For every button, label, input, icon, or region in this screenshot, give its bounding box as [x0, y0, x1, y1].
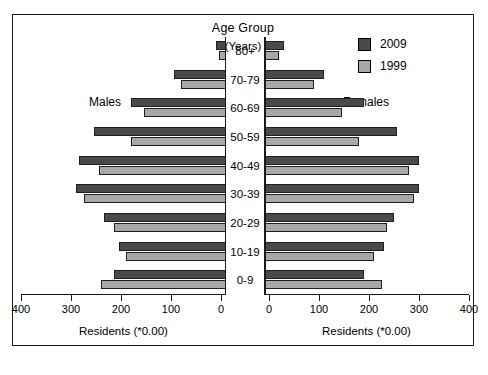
bar-males-1999-0-9	[101, 280, 226, 289]
bar-males-1999-70-79	[181, 80, 226, 89]
bar-row	[264, 152, 469, 181]
age-group-label-70-79: 70-79	[226, 66, 264, 95]
bar-females-2009-0-9	[264, 270, 364, 279]
bar-row	[264, 209, 469, 238]
bar-males-2009-20-29	[104, 213, 227, 222]
age-group-labels: 80+70-7960-6950-5940-4930-3920-2910-190-…	[226, 37, 264, 295]
age-group-label-30-39: 30-39	[226, 180, 264, 209]
bar-females-2009-50-59	[264, 127, 397, 136]
bar-females-2009-40-49	[264, 156, 419, 165]
axis-tick-label: 400	[12, 303, 30, 315]
bar-row	[21, 266, 226, 295]
bar-females-1999-50-59	[264, 137, 359, 146]
bar-row	[21, 238, 226, 267]
bar-females-2009-60-69	[264, 98, 364, 107]
axis-tick	[469, 295, 470, 301]
bar-females-2009-70-79	[264, 70, 324, 79]
axis-tick-label: 200	[112, 303, 130, 315]
females-x-axis	[264, 294, 469, 296]
axis-tick	[171, 295, 172, 301]
males-x-axis	[21, 294, 226, 296]
bar-row	[264, 123, 469, 152]
bar-row	[21, 123, 226, 152]
bar-males-2009-60-69	[131, 98, 226, 107]
bar-females-1999-0-9	[264, 280, 382, 289]
axis-tick	[369, 295, 370, 301]
bar-females-2009-20-29	[264, 213, 394, 222]
bar-row	[264, 238, 469, 267]
bar-males-1999-50-59	[131, 137, 226, 146]
bar-row	[21, 37, 226, 66]
age-group-label-20-29: 20-29	[226, 209, 264, 238]
bar-row	[264, 37, 469, 66]
bar-row	[264, 66, 469, 95]
age-group-label-50-59: 50-59	[226, 123, 264, 152]
bar-males-2009-10-19	[119, 242, 227, 251]
bar-males-1999-10-19	[126, 252, 226, 261]
bar-males-2009-50-59	[94, 127, 227, 136]
bar-females-2009-10-19	[264, 242, 384, 251]
axis-tick-label: 300	[62, 303, 80, 315]
axis-tick	[221, 295, 222, 301]
bar-females-1999-20-29	[264, 223, 387, 232]
males-axis-caption: Residents (*0.00)	[21, 325, 226, 337]
age-group-label-0-9: 0-9	[226, 266, 264, 295]
bar-row	[21, 180, 226, 209]
bar-males-1999-40-49	[99, 166, 227, 175]
chart-figure: Age Group (Years) Males Females 2009 199…	[12, 14, 474, 346]
bar-row	[21, 152, 226, 181]
males-panel: Residents (*0.00) 4003002001000	[21, 37, 226, 315]
bar-females-1999-30-39	[264, 194, 414, 203]
bar-females-2009-30-39	[264, 184, 419, 193]
bar-row	[21, 94, 226, 123]
females-axis-caption: Residents (*0.00)	[264, 325, 469, 337]
bar-females-1999-70-79	[264, 80, 314, 89]
bar-row	[264, 180, 469, 209]
axis-tick	[419, 295, 420, 301]
females-panel: Residents (*0.00) 0100200300400	[264, 37, 469, 315]
females-bars	[264, 37, 469, 295]
axis-tick-label: 0	[218, 303, 224, 315]
males-bars	[21, 37, 226, 295]
axis-tick-label: 400	[460, 303, 478, 315]
bar-row	[21, 66, 226, 95]
axis-tick	[71, 295, 72, 301]
axis-tick-label: 100	[310, 303, 328, 315]
axis-tick-label: 0	[266, 303, 272, 315]
bar-females-1999-40-49	[264, 166, 409, 175]
bar-females-1999-60-69	[264, 108, 342, 117]
age-group-label-80+: 80+	[226, 37, 264, 66]
bar-males-2009-40-49	[79, 156, 227, 165]
bar-females-1999-10-19	[264, 252, 374, 261]
bar-males-2009-70-79	[174, 70, 227, 79]
bar-females-2009-80+	[264, 41, 284, 50]
age-group-label-60-69: 60-69	[226, 94, 264, 123]
bar-females-1999-80+	[264, 51, 279, 60]
bar-males-2009-0-9	[114, 270, 227, 279]
bar-males-1999-20-29	[114, 223, 227, 232]
axis-tick-label: 300	[410, 303, 428, 315]
bar-row	[21, 209, 226, 238]
axis-tick	[319, 295, 320, 301]
axis-tick	[269, 295, 270, 301]
bar-row	[264, 94, 469, 123]
bar-males-1999-60-69	[144, 108, 227, 117]
axis-tick	[21, 295, 22, 301]
axis-tick-label: 100	[162, 303, 180, 315]
axis-tick	[121, 295, 122, 301]
bar-males-1999-30-39	[84, 194, 227, 203]
age-group-label-40-49: 40-49	[226, 152, 264, 181]
bar-males-2009-30-39	[76, 184, 226, 193]
females-zero-axis	[264, 37, 266, 295]
age-group-label-10-19: 10-19	[226, 238, 264, 267]
bar-row	[264, 266, 469, 295]
axis-tick-label: 200	[360, 303, 378, 315]
